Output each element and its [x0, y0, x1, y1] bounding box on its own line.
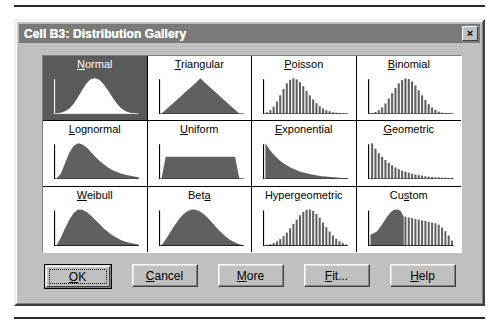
distribution-cell-lognormal[interactable]: Lognormal — [43, 121, 148, 186]
distribution-grid: NormalTriangularPoissonBinomialLognormal… — [42, 55, 462, 253]
distribution-label: Hypergeometric — [252, 189, 356, 202]
distribution-cell-beta[interactable]: Beta — [148, 187, 253, 252]
distribution-cell-weibull[interactable]: Weibull — [43, 187, 148, 252]
distribution-cell-poisson[interactable]: Poisson — [252, 56, 357, 121]
ok-button[interactable]: OK — [44, 264, 112, 289]
distribution-thumbnail-geometric — [363, 137, 457, 182]
distribution-label: Binomial — [357, 58, 462, 71]
distribution-label: Weibull — [43, 189, 147, 202]
distribution-cell-triangular[interactable]: Triangular — [148, 56, 253, 121]
distribution-thumbnail-exponential — [258, 137, 351, 182]
distribution-thumbnail-poisson — [258, 72, 351, 117]
dialog-button-row: OKCancelMoreFit...Help — [16, 264, 483, 289]
distribution-cell-exponential[interactable]: Exponential — [252, 121, 357, 186]
distribution-cell-hypergeometric[interactable]: Hypergeometric — [252, 187, 357, 252]
button-label: Fit... — [325, 269, 348, 283]
page-rule-bottom — [14, 317, 485, 319]
more-button[interactable]: More — [218, 264, 284, 287]
distribution-thumbnail-triangular — [154, 72, 247, 117]
distribution-thumbnail-uniform — [154, 137, 247, 182]
distribution-label: Uniform — [148, 123, 252, 136]
button-label: Cancel — [146, 269, 183, 283]
distribution-thumbnail-lognormal — [49, 137, 142, 182]
distribution-label: Beta — [148, 189, 252, 202]
distribution-cell-geometric[interactable]: Geometric — [357, 121, 462, 186]
distribution-gallery-dialog: Cell B3: Distribution Gallery × NormalTr… — [14, 19, 485, 306]
distribution-label: Custom — [357, 189, 462, 202]
distribution-cell-uniform[interactable]: Uniform — [148, 121, 253, 186]
titlebar: Cell B3: Distribution Gallery × — [19, 24, 480, 43]
distribution-cell-custom[interactable]: Custom — [357, 187, 462, 252]
button-label: Help — [410, 269, 435, 283]
button-label: OK — [69, 270, 86, 284]
fit-button[interactable]: Fit... — [304, 264, 370, 287]
distribution-thumbnail-custom — [363, 203, 457, 249]
help-button[interactable]: Help — [390, 264, 456, 287]
button-label: More — [237, 269, 264, 283]
distribution-label: Poisson — [252, 58, 356, 71]
distribution-label: Geometric — [357, 123, 462, 136]
distribution-thumbnail-normal — [49, 72, 142, 117]
distribution-cell-binomial[interactable]: Binomial — [357, 56, 462, 121]
window-title: Cell B3: Distribution Gallery — [24, 27, 186, 41]
distribution-label: Exponential — [252, 123, 356, 136]
page-root: Cell B3: Distribution Gallery × NormalTr… — [0, 0, 499, 330]
distribution-thumbnail-hypergeometric — [258, 203, 351, 249]
page-rule-top — [14, 5, 485, 7]
distribution-label: Triangular — [148, 58, 252, 71]
distribution-label: Lognormal — [43, 123, 147, 136]
distribution-label: Normal — [43, 58, 147, 71]
close-button[interactable]: × — [462, 26, 478, 41]
close-icon: × — [467, 28, 473, 39]
distribution-thumbnail-beta — [154, 203, 247, 249]
distribution-thumbnail-weibull — [49, 203, 142, 249]
distribution-thumbnail-binomial — [363, 72, 457, 117]
distribution-cell-normal[interactable]: Normal — [43, 56, 148, 121]
cancel-button[interactable]: Cancel — [132, 264, 198, 287]
